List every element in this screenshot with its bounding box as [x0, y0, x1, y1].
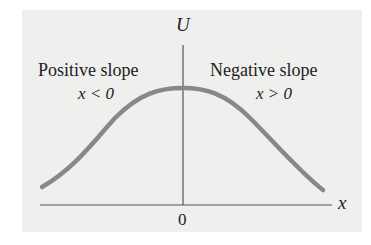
right-region-title: Negative slope — [210, 60, 317, 81]
left-region-condition: x < 0 — [78, 84, 114, 104]
origin-label: 0 — [178, 210, 187, 230]
potential-energy-plot — [0, 0, 371, 245]
left-region-title: Positive slope — [38, 60, 139, 81]
x-axis-label: x — [338, 192, 346, 214]
y-axis-label: U — [176, 14, 190, 36]
right-region-condition: x > 0 — [256, 84, 292, 104]
